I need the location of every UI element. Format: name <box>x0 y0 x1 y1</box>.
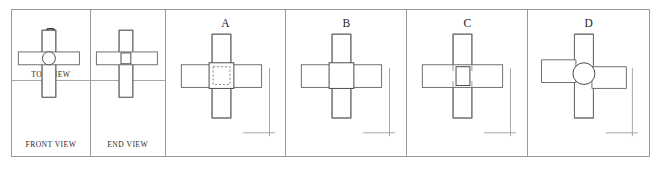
given-view-front: ? TOP VIEW FRONT VIEW <box>12 10 91 156</box>
option-c[interactable]: C <box>407 10 528 156</box>
option-b[interactable]: B <box>286 10 407 156</box>
puzzle-frame: ? TOP VIEW FRONT VIEW <box>11 9 650 157</box>
option-b-drawing <box>286 10 406 156</box>
front-view-drawing <box>12 10 90 156</box>
given-view-end: END VIEW <box>91 10 166 156</box>
option-d-drawing <box>528 10 649 156</box>
end-view-drawing <box>91 10 165 156</box>
front-view-label: FRONT VIEW <box>12 140 90 149</box>
option-c-drawing <box>407 10 527 156</box>
option-a-drawing <box>166 10 286 156</box>
end-view-label: END VIEW <box>91 140 165 149</box>
option-d[interactable]: D <box>528 10 649 156</box>
projection-puzzle-sheet: ? TOP VIEW FRONT VIEW <box>0 0 661 169</box>
option-a[interactable]: A <box>166 10 287 156</box>
